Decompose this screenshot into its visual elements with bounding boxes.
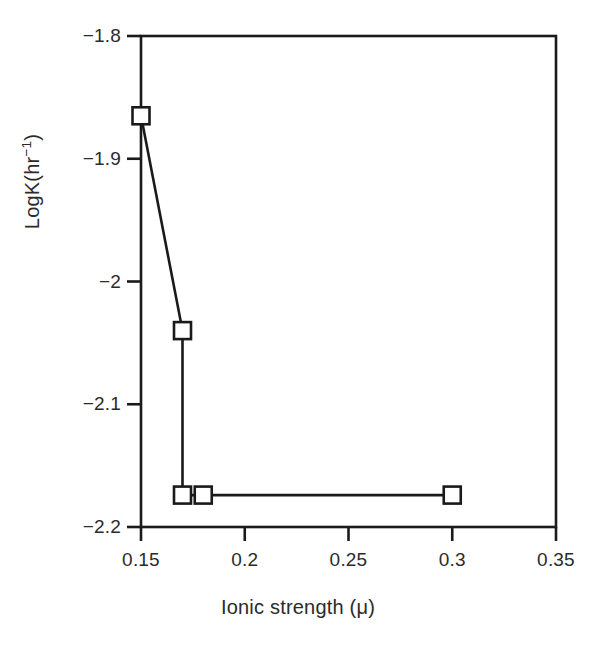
y-tick-label: −1.8 bbox=[30, 25, 121, 47]
y-tick-label: −2.2 bbox=[30, 516, 121, 538]
chart-figure: −1.8−1.9−2−2.1−2.2 0.150.20.250.30.35 Lo… bbox=[0, 0, 596, 651]
x-axis-title: Ionic strength (μ) bbox=[0, 596, 596, 619]
x-tick-label: 0.3 bbox=[439, 549, 466, 571]
y-tick-label: −2.1 bbox=[30, 393, 121, 415]
plot-canvas bbox=[0, 0, 596, 651]
data-point-marker bbox=[174, 322, 191, 339]
x-tick-marks bbox=[141, 527, 556, 541]
y-axis-title: LogK(hr−1) bbox=[21, 92, 44, 272]
y-tick-label: −1.9 bbox=[30, 148, 121, 170]
x-tick-label: 0.25 bbox=[330, 549, 368, 571]
axis-frame bbox=[141, 36, 556, 527]
y-axis-title-exponent: −1 bbox=[19, 141, 34, 157]
x-tick-label: 0.2 bbox=[231, 549, 258, 571]
x-tick-label: 0.15 bbox=[122, 549, 160, 571]
data-point-marker bbox=[195, 487, 212, 504]
plot-border bbox=[141, 36, 556, 527]
data-point-marker bbox=[133, 107, 150, 124]
x-tick-label: 0.35 bbox=[537, 549, 575, 571]
data-point-marker bbox=[444, 487, 461, 504]
data-point-marker bbox=[174, 487, 191, 504]
data-series-line bbox=[141, 116, 452, 495]
y-tick-label: −2 bbox=[30, 271, 121, 293]
